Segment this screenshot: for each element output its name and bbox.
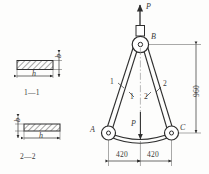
load-label-top: P: [146, 3, 151, 11]
section-2-2-thickness-label: b: [14, 118, 22, 122]
dimension-set: [109, 45, 202, 167]
joint-a-pin: [107, 131, 111, 135]
load-label-center: P: [131, 120, 136, 128]
point-label-b: B: [151, 33, 156, 41]
dim-label-height: 960: [193, 85, 201, 97]
section-1-1-width-label: h: [32, 70, 36, 78]
member-2-inner-mark: 2: [144, 93, 148, 101]
section-2-2-shape: [24, 124, 60, 131]
member-2-edge-outer: [147, 44, 173, 129]
joint-b-pin: [138, 42, 142, 46]
joint-c-pin: [170, 131, 174, 135]
truss-assembly: [102, 5, 179, 143]
truss-drawing-canvas: [0, 0, 209, 174]
section-1-1-thickness-label: b: [55, 54, 63, 58]
section-2-2-width-label: h: [39, 132, 43, 140]
point-label-a: A: [90, 126, 95, 134]
member-1-inner-mark: 1: [130, 93, 134, 101]
dim-label-420-right: 420: [147, 151, 159, 159]
section-2-2-title: 2—2: [20, 153, 36, 161]
member-2-outer-mark: 2: [163, 80, 167, 88]
apex-lug: [136, 26, 145, 37]
section-1-1-title: 1—1: [24, 89, 40, 97]
engineering-drawing-figure: P B A C P 1 1 2 2 960 420 420 h b 1—1 h …: [0, 0, 209, 174]
member-1-outer-mark: 1: [110, 78, 114, 86]
dim-label-420-left: 420: [116, 151, 128, 159]
member-1-edge-inner: [113, 45, 140, 129]
point-label-c: C: [180, 124, 185, 132]
